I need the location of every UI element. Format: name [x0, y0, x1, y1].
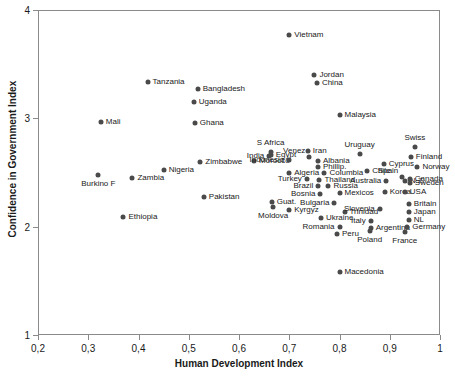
- data-point: [334, 232, 339, 237]
- data-point: [326, 183, 331, 188]
- y-tick-mark: [33, 118, 38, 119]
- data-point: [198, 159, 203, 164]
- data-point: [145, 79, 150, 84]
- data-point: [337, 270, 342, 275]
- y-tick-label: 3: [24, 113, 30, 124]
- data-point-label: Norway: [422, 163, 449, 171]
- data-point-label: S Africa: [257, 139, 285, 147]
- data-point-label: Pakistan: [209, 193, 240, 201]
- x-tick-label: 0,5: [182, 343, 196, 354]
- data-point: [377, 207, 382, 212]
- data-point-label: Macedonia: [345, 268, 384, 276]
- data-point-label: Swiss: [404, 134, 425, 142]
- data-point-label: Uganda: [199, 98, 227, 106]
- x-tick-mark: [189, 335, 190, 340]
- data-point-label: Germany: [412, 223, 445, 231]
- x-tick-mark: [88, 335, 89, 340]
- data-point: [307, 155, 312, 160]
- data-point: [337, 113, 342, 118]
- x-tick-mark: [239, 335, 240, 340]
- data-point: [121, 214, 126, 219]
- data-point: [412, 144, 417, 149]
- data-point: [98, 119, 103, 124]
- x-tick-mark: [289, 335, 290, 340]
- data-point: [365, 169, 370, 174]
- data-point-label: Kyrgyz: [294, 206, 318, 214]
- data-point: [318, 216, 323, 221]
- data-point-label: Mali: [106, 118, 121, 126]
- x-tick-mark: [38, 335, 39, 340]
- data-point: [287, 157, 292, 162]
- data-point: [406, 209, 411, 214]
- data-point: [271, 205, 276, 210]
- data-point-label: Malaysia: [345, 111, 377, 119]
- data-point-label: Burkino F: [81, 180, 115, 188]
- data-point: [269, 199, 274, 204]
- data-point-label: Indonesia: [250, 156, 285, 164]
- x-tick-mark: [139, 335, 140, 340]
- data-point-label: Moldova: [258, 212, 288, 220]
- data-point-label: China: [322, 79, 343, 87]
- x-tick-label: 1: [437, 343, 443, 354]
- data-point: [415, 165, 420, 170]
- data-point-label: Ethiopia: [128, 213, 157, 221]
- data-point-label: Bangladesh: [203, 85, 245, 93]
- data-point-label: USA: [410, 188, 426, 196]
- data-point: [305, 148, 310, 153]
- data-point: [287, 208, 292, 213]
- y-tick-label: 2: [24, 221, 30, 232]
- data-point-label: Korea: [390, 188, 411, 196]
- x-tick-label: 0,7: [282, 343, 296, 354]
- x-tick-label: 0,3: [81, 343, 95, 354]
- data-point-label: Nigeria: [169, 166, 194, 174]
- data-point: [407, 181, 412, 186]
- data-point: [384, 179, 389, 184]
- x-tick-mark: [340, 335, 341, 340]
- y-tick-label: 4: [24, 5, 30, 16]
- data-point-label: Finland: [416, 153, 442, 161]
- data-point-label: Vietnam: [294, 31, 323, 39]
- y-tick-mark: [33, 10, 38, 11]
- data-point: [405, 224, 410, 229]
- data-point: [195, 87, 200, 92]
- data-point-label: Spain: [378, 167, 398, 175]
- x-tick-label: 0,4: [132, 343, 146, 354]
- x-tick-label: 0,8: [333, 343, 347, 354]
- data-point-label: Mexicos: [345, 189, 374, 197]
- data-point-label: Romania: [302, 223, 334, 231]
- data-point-label: Italy: [351, 217, 366, 225]
- x-tick-mark: [390, 335, 391, 340]
- x-axis-title: Human Development Index: [38, 358, 440, 369]
- data-point-label: Venez: [283, 147, 305, 155]
- data-point: [332, 200, 337, 205]
- data-point-label: Iran: [313, 147, 327, 155]
- data-point-label: Ghana: [200, 119, 224, 127]
- data-point-label: Poland: [357, 236, 382, 244]
- x-tick-label: 0,6: [232, 343, 246, 354]
- data-point-label: Zambia: [137, 174, 164, 182]
- data-point: [318, 192, 323, 197]
- data-point: [367, 229, 372, 234]
- data-point: [368, 219, 373, 224]
- data-point: [201, 195, 206, 200]
- data-point: [287, 32, 292, 37]
- data-point: [317, 178, 322, 183]
- y-tick-mark: [33, 227, 38, 228]
- x-tick-mark: [440, 335, 441, 340]
- data-point: [406, 201, 411, 206]
- x-tick-label: 0,2: [31, 343, 45, 354]
- data-point: [315, 158, 320, 163]
- data-point: [382, 190, 387, 195]
- data-point: [337, 191, 342, 196]
- data-point: [192, 120, 197, 125]
- data-point-label: Tanzania: [153, 78, 185, 86]
- data-point: [402, 190, 407, 195]
- y-tick-label: 1: [24, 330, 30, 341]
- data-point: [191, 100, 196, 105]
- data-point-label: Zimbabwe: [205, 158, 242, 166]
- data-point: [312, 73, 317, 78]
- data-point: [402, 230, 407, 235]
- data-point: [314, 80, 319, 85]
- data-point: [316, 183, 321, 188]
- x-tick-label: 0,9: [383, 343, 397, 354]
